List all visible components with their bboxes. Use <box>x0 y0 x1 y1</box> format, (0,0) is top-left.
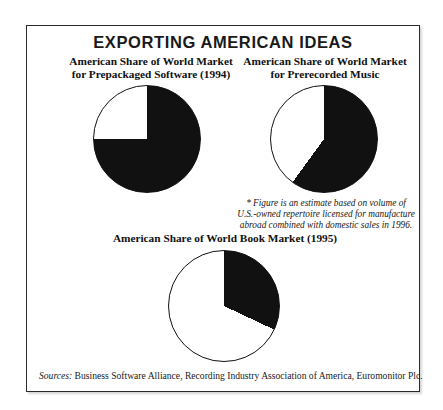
pie-chart-book: 32% <box>168 250 280 362</box>
chart-title-music-line1: American Share of World Market <box>230 55 420 68</box>
chart-title-software: American Share of World Market for Prepa… <box>56 55 246 82</box>
sources-line: Sources: Business Software Alliance, Rec… <box>39 370 411 382</box>
chart-title-book: American Share of World Book Market (199… <box>103 232 347 245</box>
chart-title-book-line1: American Share of World Book Market (199… <box>103 232 347 245</box>
chart-footnote-music: * Figure is an estimate based on volume … <box>228 198 424 232</box>
chart-footnote-music-line1: * Figure is an estimate based on volume … <box>228 198 424 209</box>
figure-frame: EXPORTING AMERICAN IDEAS American Share … <box>26 25 420 392</box>
chart-title-music-line2: for Prerecorded Music <box>230 68 420 81</box>
chart-title-music: American Share of World Market for Prere… <box>230 55 420 82</box>
sources-text: Business Software Alliance, Recording In… <box>72 370 422 381</box>
chart-footnote-music-line2: U.S.-owned repertoire licensed for manuf… <box>228 209 424 220</box>
chart-footnote-music-line3: abroad combined with domestic sales in 1… <box>228 220 424 231</box>
chart-title-software-line2: for Prepackaged Software (1994) <box>56 68 246 81</box>
chart-title-software-line1: American Share of World Market <box>56 55 246 68</box>
pie-chart-software: 75% <box>93 85 201 193</box>
sources-label: Sources: <box>39 370 72 381</box>
pie-label-software: 75% <box>203 194 230 210</box>
pie-chart-music: 60% <box>270 85 378 193</box>
page-title: EXPORTING AMERICAN IDEAS <box>27 33 419 52</box>
